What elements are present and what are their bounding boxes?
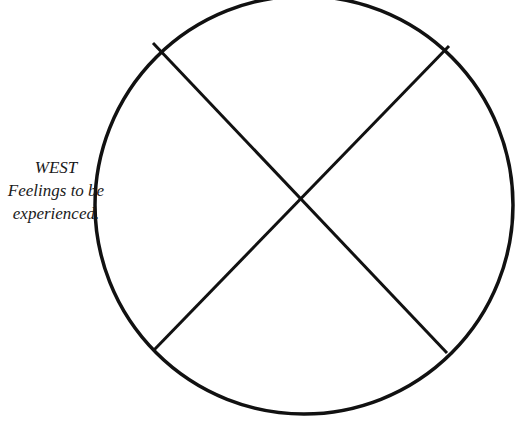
west-description-line-2: experienced. bbox=[0, 202, 112, 225]
medicine-wheel-diagram: WEST Feelings to be experienced. bbox=[0, 0, 517, 426]
west-description-line-1: Feelings to be bbox=[0, 179, 112, 202]
wheel-circle bbox=[95, 0, 513, 414]
west-direction-title: WEST bbox=[0, 156, 112, 179]
west-label: WEST Feelings to be experienced. bbox=[0, 156, 112, 225]
